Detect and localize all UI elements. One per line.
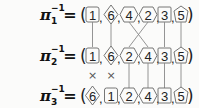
svg-text:6: 6 xyxy=(89,89,96,104)
row-2-items: 1 , 6 , 2 , 4 , 3 , 5 xyxy=(86,46,188,66)
svg-text:4: 4 xyxy=(144,49,151,64)
svg-text:1: 1 xyxy=(89,49,96,64)
svg-text:,: , xyxy=(117,91,121,106)
svg-text:,: , xyxy=(99,10,103,25)
svg-text:4: 4 xyxy=(144,89,151,104)
svg-text:=: = xyxy=(63,5,76,24)
svg-text:=: = xyxy=(63,86,76,105)
svg-text:,: , xyxy=(117,51,121,66)
svg-text:2: 2 xyxy=(125,49,132,64)
transition-1-2 xyxy=(93,22,182,47)
svg-text:,: , xyxy=(99,51,103,66)
svg-text:=: = xyxy=(63,46,76,65)
svg-text:4: 4 xyxy=(125,8,132,23)
svg-text:2: 2 xyxy=(125,89,132,104)
row-2-label: π −1 2 = xyxy=(39,44,77,67)
close-paren: ) xyxy=(187,5,194,25)
permutation-diagram: π −1 1 = π −1 2 = π −1 3 = ( ) ( ) ( ) 1… xyxy=(0,0,199,108)
svg-text:3: 3 xyxy=(51,97,57,107)
close-paren: ) xyxy=(187,46,194,66)
svg-text:3: 3 xyxy=(161,49,168,64)
svg-text:2: 2 xyxy=(51,57,57,67)
svg-text:1: 1 xyxy=(107,89,114,104)
svg-text:,: , xyxy=(117,10,121,25)
row-3-items: 6 , 1 , 2 , 4 , 3 , 5 xyxy=(86,86,189,106)
row-1-label: π −1 1 = xyxy=(39,3,77,26)
close-paren: ) xyxy=(187,86,194,106)
svg-text:6: 6 xyxy=(107,49,114,64)
svg-text:5: 5 xyxy=(177,8,184,23)
svg-text:2: 2 xyxy=(144,8,151,23)
svg-text:3: 3 xyxy=(161,8,168,23)
row-3-label: π −1 3 = xyxy=(39,84,77,107)
svg-text:1: 1 xyxy=(89,8,96,23)
svg-text:1: 1 xyxy=(51,16,57,26)
row-1-items: 1 , 6 , 4 , 2 , 3 , 5 xyxy=(86,5,188,25)
cross-mark: × xyxy=(88,69,97,82)
svg-text:5: 5 xyxy=(177,49,184,64)
svg-text:5: 5 xyxy=(177,89,184,104)
svg-text:6: 6 xyxy=(107,8,114,23)
svg-text:,: , xyxy=(99,91,103,106)
svg-text:3: 3 xyxy=(161,89,168,104)
cross-mark: × xyxy=(106,69,115,82)
transition-2-3: × × xyxy=(88,63,181,88)
